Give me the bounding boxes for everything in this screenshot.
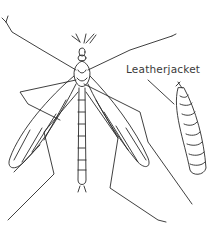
crane-fly-abdomen [78,88,86,192]
leatherjacket-label: Leatherjacket [126,63,200,75]
crane-fly-drawing [0,0,224,245]
crane-fly-head [72,34,96,61]
leatherjacket-larva [176,82,206,174]
crane-fly-legs [2,16,192,222]
crane-fly-thorax [74,61,90,87]
illustration-canvas: Leatherjacket [0,0,224,245]
label-pointer-line [148,80,174,104]
